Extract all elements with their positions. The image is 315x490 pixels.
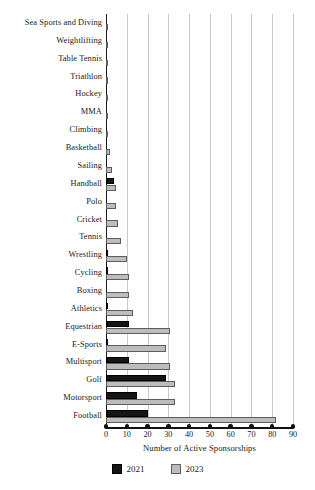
bar-2021 — [106, 321, 129, 327]
x-tick-dot-50 — [208, 424, 212, 428]
bar-rows — [106, 14, 293, 425]
x-tick-dot-70 — [249, 424, 253, 428]
bar-2023 — [106, 238, 121, 244]
bar-2023 — [106, 95, 108, 101]
x-tick-label-90: 90 — [280, 430, 306, 440]
bar-group — [106, 14, 293, 32]
bar-2021 — [106, 375, 166, 381]
x-tick-dot-80 — [270, 424, 274, 428]
x-tick-dot-60 — [228, 424, 232, 428]
bar-2023 — [106, 185, 116, 191]
bar-group — [106, 157, 293, 175]
bar-2021 — [106, 357, 129, 363]
y-axis-label-tennis: Tennis — [0, 232, 102, 241]
bar-group — [106, 193, 293, 211]
bar-2021 — [106, 178, 114, 184]
bar-2023 — [106, 220, 118, 226]
y-axis-label-wrestling: Wrestling — [0, 250, 102, 259]
bar-group — [106, 68, 293, 86]
y-axis-label-sailing: Sailing — [0, 161, 102, 170]
y-axis-label-basketball: Basketball — [0, 143, 102, 152]
bar-group — [106, 50, 293, 68]
chart-legend: 2021 2023 — [0, 464, 315, 474]
x-tick-dot-0 — [104, 424, 108, 428]
bar-2023 — [106, 399, 175, 405]
legend-swatch-2021-icon — [112, 464, 122, 474]
bar-2023 — [106, 113, 108, 119]
x-tick-dot-10 — [125, 424, 129, 428]
bar-2023 — [106, 42, 108, 48]
legend-label-2023: 2023 — [186, 464, 204, 474]
y-axis-label-football: Football — [0, 411, 102, 420]
bar-group — [106, 139, 293, 157]
bar-2021 — [106, 410, 148, 416]
bar-group — [106, 103, 293, 121]
plot-area — [106, 14, 293, 425]
x-axis-title: Number of Active Sponsorships — [106, 443, 293, 453]
y-axis-label-cricket: Cricket — [0, 215, 102, 224]
bar-2021 — [106, 250, 108, 256]
bar-2023 — [106, 203, 116, 209]
legend-label-2021: 2021 — [127, 464, 145, 474]
bar-2023 — [106, 60, 108, 66]
bar-group — [106, 407, 293, 425]
y-axis-label-equestrian: Equestrian — [0, 322, 102, 331]
y-axis-label-climbing: Climbing — [0, 125, 102, 134]
x-tick-dot-20 — [145, 424, 149, 428]
bar-group — [106, 264, 293, 282]
bar-2023 — [106, 292, 129, 298]
bar-2023 — [106, 381, 175, 387]
bar-group — [106, 246, 293, 264]
legend-item-2021: 2021 — [112, 464, 145, 474]
bar-2023 — [106, 149, 110, 155]
bar-2023 — [106, 328, 170, 334]
bar-group — [106, 389, 293, 407]
bar-group — [106, 85, 293, 103]
x-tick-dot-30 — [166, 424, 170, 428]
gridline-90 — [293, 14, 294, 425]
y-axis-label-triathlon: Triathlon — [0, 72, 102, 81]
bar-group — [106, 175, 293, 193]
bar-2023 — [106, 310, 133, 316]
y-axis-label-cycling: Cycling — [0, 268, 102, 277]
bar-2023 — [106, 417, 276, 423]
bar-2021 — [106, 303, 108, 309]
y-axis-label-mma: MMA — [0, 107, 102, 116]
y-axis-label-sea-sports-and-diving: Sea Sports and Diving — [0, 18, 102, 27]
bar-2023 — [106, 167, 112, 173]
bar-2021 — [106, 267, 108, 273]
y-axis-label-hockey: Hockey — [0, 89, 102, 98]
bar-2023 — [106, 345, 166, 351]
y-axis-label-handball: Handball — [0, 179, 102, 188]
y-axis-label-table-tennis: Table Tennis — [0, 54, 102, 63]
y-axis-category-labels: Sea Sports and DivingWeightliftingTable … — [0, 14, 102, 425]
bar-2021 — [106, 339, 108, 345]
bar-2023 — [106, 274, 129, 280]
bar-group — [106, 228, 293, 246]
x-tick-dot-40 — [187, 424, 191, 428]
y-axis-label-boxing: Boxing — [0, 286, 102, 295]
y-axis-label-athletics: Athletics — [0, 304, 102, 313]
legend-swatch-2023-icon — [171, 464, 181, 474]
x-tick-dot-90 — [291, 424, 295, 428]
legend-item-2023: 2023 — [171, 464, 204, 474]
x-axis-line — [106, 427, 293, 429]
bar-group — [106, 32, 293, 50]
bar-group — [106, 300, 293, 318]
bar-chart: Sea Sports and DivingWeightliftingTable … — [0, 0, 315, 490]
y-axis-label-multisport: Multisport — [0, 357, 102, 366]
bar-group — [106, 354, 293, 372]
y-axis-label-weightlifting: Weightlifting — [0, 36, 102, 45]
bar-group — [106, 121, 293, 139]
y-axis-label-polo: Polo — [0, 197, 102, 206]
y-axis-label-motorsport: Motorsport — [0, 393, 102, 402]
bar-group — [106, 371, 293, 389]
bar-2023 — [106, 77, 108, 83]
bar-group — [106, 336, 293, 354]
bar-2021 — [106, 392, 137, 398]
y-axis-label-e-sports: E-Sports — [0, 340, 102, 349]
y-axis-label-golf: Golf — [0, 375, 102, 384]
bar-2023 — [106, 131, 108, 137]
bar-group — [106, 318, 293, 336]
bar-2023 — [106, 24, 108, 30]
